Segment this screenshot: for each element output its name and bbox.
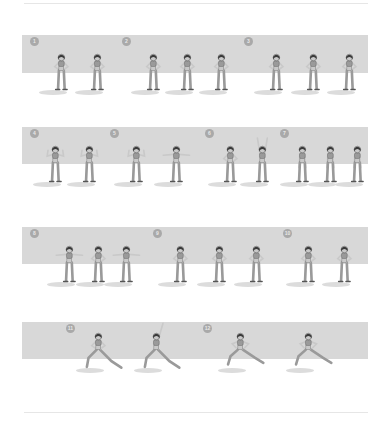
exercise-figure-arms-up bbox=[244, 135, 283, 187]
top-divider bbox=[24, 3, 368, 4]
exercise-figure-stand bbox=[43, 43, 82, 95]
exercise-figure-hips bbox=[162, 235, 201, 287]
step-number-badge: 12 bbox=[203, 324, 212, 333]
exercise-figure-hips bbox=[201, 235, 240, 287]
exercise-figure-ankle bbox=[290, 235, 329, 287]
step-number-badge: 3 bbox=[244, 37, 253, 46]
step-number-badge: 1 bbox=[30, 37, 39, 46]
step-number-badge: 8 bbox=[30, 229, 39, 238]
exercise-figure-stand bbox=[295, 43, 334, 95]
step-number-badge: 9 bbox=[153, 229, 162, 238]
exercise-figure-stand bbox=[79, 43, 118, 95]
exercise-figure-shoulders bbox=[71, 135, 110, 187]
step-number-badge: 11 bbox=[66, 324, 75, 333]
exercise-figure-rotate bbox=[331, 43, 370, 95]
exercise-figure-lunge bbox=[80, 322, 119, 374]
step-number-badge: 2 bbox=[122, 37, 131, 46]
exercise-figure-tilt-right bbox=[203, 43, 242, 95]
exercise-figure-lunge-reach bbox=[138, 322, 177, 374]
exercise-figure-side-lunge bbox=[290, 322, 329, 374]
exercise-figure-twist bbox=[108, 235, 147, 287]
exercise-figure-side-lunge bbox=[222, 322, 261, 374]
exercise-figure-rotate bbox=[258, 43, 297, 95]
exercise-figure-hips bbox=[238, 235, 277, 287]
exercise-figure-ankle bbox=[326, 235, 365, 287]
exercise-figure-arms-out bbox=[158, 135, 197, 187]
bottom-divider bbox=[24, 412, 368, 413]
exercise-figure-flex bbox=[118, 135, 157, 187]
exercise-figure-knees bbox=[339, 135, 378, 187]
